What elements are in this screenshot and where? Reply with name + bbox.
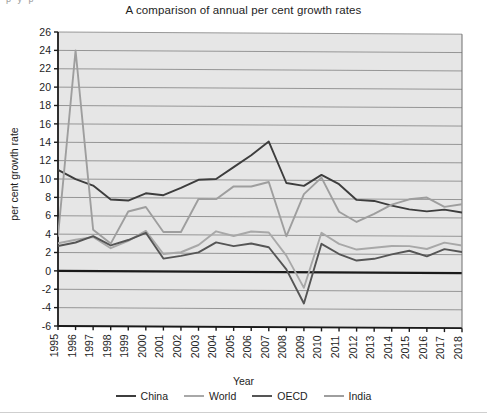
svg-text:2014: 2014 <box>382 336 394 360</box>
legend-item-oecd: OECD <box>252 390 307 402</box>
legend-label: World <box>209 390 236 402</box>
page-divider <box>0 412 487 413</box>
chart-figure: p y p A comparison of annual per cent gr… <box>0 0 487 419</box>
y-axis-ticks: -6-4-202468101214161820222426 <box>39 26 58 332</box>
svg-text:2016: 2016 <box>417 336 429 360</box>
legend-label: China <box>141 390 168 402</box>
svg-text:2004: 2004 <box>206 335 218 359</box>
legend-swatch-world <box>184 395 204 397</box>
svg-text:-6: -6 <box>42 320 51 332</box>
svg-text:26: 26 <box>39 26 51 38</box>
line-chart-plot: -6-4-202468101214161820222426 1995199619… <box>0 0 487 419</box>
svg-text:2009: 2009 <box>294 335 306 359</box>
svg-text:2: 2 <box>45 246 51 258</box>
svg-text:6: 6 <box>45 209 51 221</box>
svg-text:2018: 2018 <box>452 336 464 360</box>
svg-text:1998: 1998 <box>101 334 113 358</box>
svg-text:8: 8 <box>45 191 51 203</box>
svg-text:-4: -4 <box>42 301 51 313</box>
svg-text:2005: 2005 <box>224 335 236 359</box>
svg-text:2008: 2008 <box>276 335 288 359</box>
legend-label: India <box>349 390 372 402</box>
svg-text:24: 24 <box>39 44 51 56</box>
chart-legend: ChinaWorldOECDIndia <box>0 390 487 402</box>
legend-item-india: India <box>324 390 372 402</box>
svg-text:-2: -2 <box>42 283 51 295</box>
svg-text:2007: 2007 <box>259 335 271 359</box>
legend-item-china: China <box>116 390 168 402</box>
svg-text:2015: 2015 <box>399 336 411 360</box>
x-axis-ticks: 1995199619971998199920002001200220032004… <box>48 326 464 360</box>
svg-text:4: 4 <box>45 228 51 240</box>
svg-text:2002: 2002 <box>171 335 183 359</box>
svg-text:10: 10 <box>39 173 51 185</box>
svg-text:20: 20 <box>39 81 51 93</box>
svg-text:2017: 2017 <box>434 336 446 360</box>
svg-text:18: 18 <box>39 99 51 111</box>
x-axis-label: Year <box>0 375 487 387</box>
legend-swatch-india <box>324 395 344 397</box>
svg-text:1997: 1997 <box>83 334 95 358</box>
svg-text:2010: 2010 <box>311 335 323 359</box>
legend-swatch-china <box>116 395 136 397</box>
svg-text:0: 0 <box>45 265 51 277</box>
svg-text:1999: 1999 <box>118 334 130 358</box>
svg-text:2012: 2012 <box>347 335 359 359</box>
svg-text:1995: 1995 <box>48 334 60 358</box>
svg-text:2001: 2001 <box>153 334 165 358</box>
svg-text:2000: 2000 <box>136 334 148 358</box>
svg-text:12: 12 <box>39 154 51 166</box>
svg-text:16: 16 <box>39 118 51 130</box>
legend-item-world: World <box>184 390 236 402</box>
legend-label: OECD <box>277 390 307 402</box>
legend-swatch-oecd <box>252 395 272 397</box>
svg-text:2013: 2013 <box>364 336 376 360</box>
svg-text:14: 14 <box>39 136 51 148</box>
svg-text:22: 22 <box>39 62 51 74</box>
svg-text:2011: 2011 <box>329 335 341 358</box>
svg-text:2003: 2003 <box>189 335 201 359</box>
svg-text:2006: 2006 <box>241 335 253 359</box>
svg-text:1996: 1996 <box>66 334 78 358</box>
